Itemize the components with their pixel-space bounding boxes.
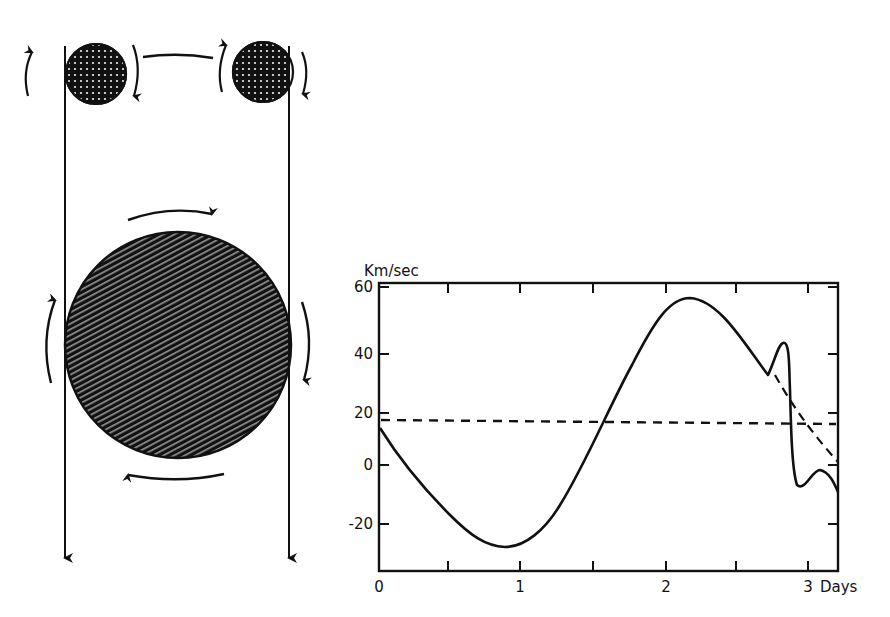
velocity-chart: Km/sec 60 40 20 0 -20 0 1 2 3 Days bbox=[349, 262, 858, 596]
orbit-connector bbox=[143, 55, 213, 58]
figure-canvas: Km/sec 60 40 20 0 -20 0 1 2 3 Days bbox=[0, 0, 890, 617]
y-ticks bbox=[379, 287, 838, 524]
binary-star-diagram bbox=[26, 40, 309, 558]
mean-velocity-dashed-line bbox=[381, 420, 836, 424]
rotation-arrow-icon bbox=[128, 474, 224, 479]
x-tick-label: 1 bbox=[515, 578, 525, 596]
y-tick-label: 40 bbox=[354, 345, 373, 363]
rotation-arrow-icon bbox=[26, 52, 32, 96]
y-tick-label: 0 bbox=[363, 456, 373, 474]
small-star-right bbox=[233, 40, 299, 110]
rotation-arrow-icon bbox=[302, 302, 309, 380]
x-tick-label: 0 bbox=[374, 578, 384, 596]
plot-frame bbox=[379, 283, 838, 571]
rotation-arrow-icon bbox=[46, 300, 55, 383]
x-tick-label: 2 bbox=[661, 578, 671, 596]
x-axis-unit-label: Days bbox=[820, 578, 858, 596]
x-ticks bbox=[448, 283, 808, 571]
large-star bbox=[65, 232, 291, 458]
sinusoid-continuation-dashed bbox=[775, 375, 838, 462]
x-tick-label: 3 bbox=[803, 578, 813, 596]
y-tick-label: 60 bbox=[354, 278, 373, 296]
y-tick-label: -20 bbox=[349, 515, 374, 533]
rotation-arrow-icon bbox=[220, 45, 226, 92]
y-tick-label: 20 bbox=[354, 404, 373, 422]
small-star-left bbox=[65, 44, 126, 104]
rotation-arrow-icon bbox=[302, 52, 306, 94]
rotation-arrow-icon bbox=[133, 45, 138, 96]
rotation-arrow-icon bbox=[128, 211, 212, 220]
